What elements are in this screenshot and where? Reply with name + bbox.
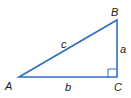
vertex-label-c-upper: C [114, 81, 122, 93]
vertex-label-a-upper: A [4, 80, 12, 92]
side-label-c: c [61, 38, 67, 50]
vertex-label-b-upper: B [111, 6, 118, 18]
right-triangle-diagram: A B C a b c [0, 0, 131, 98]
side-label-b: b [65, 81, 71, 93]
right-angle-marker [108, 69, 117, 77]
triangle-outline [19, 20, 117, 77]
side-label-a: a [120, 43, 126, 55]
